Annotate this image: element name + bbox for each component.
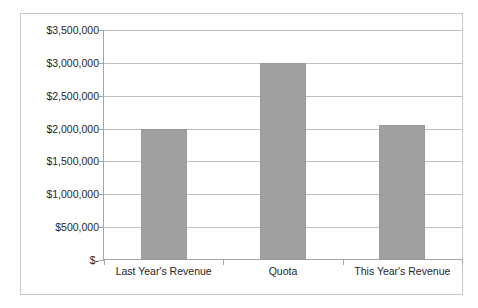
y-axis-tick [99,161,104,162]
x-axis-category-label: This Year's Revenue [354,266,450,277]
y-axis-tick [99,63,104,64]
y-axis-tick [99,96,104,97]
chart-frame: $3,500,000$3,000,000$2,500,000$2,000,000… [20,13,463,295]
x-axis-tick [343,260,344,265]
y-axis-tick-label: $2,500,000 [19,90,99,101]
y-axis-tick-label: $- [19,255,99,266]
x-axis-labels: Last Year's RevenueQuotaThis Year's Reve… [104,266,462,286]
y-axis-tick-label: $1,000,000 [19,189,99,200]
y-axis-labels: $3,500,000$3,000,000$2,500,000$2,000,000… [21,30,99,260]
y-axis-tick-label: $3,500,000 [19,25,99,36]
gridline [104,30,462,31]
x-axis-tick [104,260,105,265]
x-axis-category-label: Last Year's Revenue [116,266,212,277]
x-axis-category-label: Quota [269,266,298,277]
y-axis-tick [99,129,104,130]
x-axis-tick [462,260,463,265]
y-axis-tick-label: $1,500,000 [19,156,99,167]
y-axis-tick-label: $3,000,000 [19,58,99,69]
bar[interactable] [260,63,306,260]
bar[interactable] [379,125,425,260]
plot-area [104,30,462,260]
y-axis-tick-label: $2,000,000 [19,123,99,134]
x-axis-tick [223,260,224,265]
y-axis-tick [99,194,104,195]
y-axis-tick-label: $500,000 [19,222,99,233]
y-axis-tick [99,30,104,31]
bar[interactable] [141,129,187,260]
y-axis-tick [99,227,104,228]
